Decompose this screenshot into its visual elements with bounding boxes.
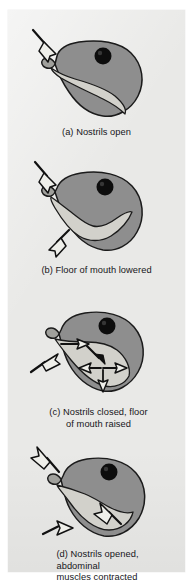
frog-eye-a bbox=[94, 48, 111, 65]
frog-illustration-c bbox=[17, 298, 177, 404]
caption-a-line-1: (a) Nostrils open bbox=[8, 127, 185, 139]
frog-body-a bbox=[41, 41, 141, 116]
panel-b: (b) Floor of mouth lowered bbox=[8, 158, 185, 277]
mouth-floor-lowering-arrow bbox=[49, 230, 69, 257]
figure-panel: (a) Nostrils open bbox=[8, 10, 185, 572]
abdominal-contraction-arrow bbox=[43, 521, 73, 535]
frog-eye-b bbox=[96, 179, 113, 196]
frog-eye-c bbox=[98, 318, 115, 335]
frog-illustration-a bbox=[17, 24, 177, 124]
frog-illustration-d bbox=[17, 442, 177, 546]
frog-eye-d bbox=[100, 464, 117, 481]
caption-d-line-1: (d) Nostrils opened, bbox=[56, 549, 138, 561]
frog-illustration-b bbox=[17, 158, 177, 262]
caption-c-line-2: of mouth raised bbox=[49, 419, 147, 431]
frog-diagram-c bbox=[8, 298, 185, 404]
caption-d-line-2: abdominal bbox=[56, 561, 138, 573]
caption-d: (d) Nostrils opened, abdominal muscles c… bbox=[8, 546, 185, 584]
caption-a: (a) Nostrils open bbox=[8, 124, 185, 139]
frog-body-c bbox=[45, 312, 143, 391]
frog-body-b bbox=[41, 172, 141, 250]
frog-diagram-b bbox=[8, 158, 185, 262]
frog-diagram-a bbox=[8, 24, 185, 124]
panel-a: (a) Nostrils open bbox=[8, 24, 185, 139]
caption-b-line-1: (b) Floor of mouth lowered bbox=[8, 265, 185, 277]
caption-b: (b) Floor of mouth lowered bbox=[8, 262, 185, 277]
panel-d: (d) Nostrils opened, abdominal muscles c… bbox=[8, 442, 185, 584]
caption-c-line-1: (c) Nostrils closed, floor bbox=[49, 407, 147, 419]
nostril-outflow-arrow bbox=[31, 447, 59, 472]
panel-c: (c) Nostrils closed, floor of mouth rais… bbox=[8, 298, 185, 430]
frog-diagram-d bbox=[8, 442, 185, 546]
caption-c: (c) Nostrils closed, floor of mouth rais… bbox=[8, 404, 185, 430]
caption-d-line-3: muscles contracted bbox=[56, 572, 138, 584]
external-inflow-arrow bbox=[31, 354, 60, 372]
nostril-inflow-arrow bbox=[33, 30, 56, 62]
